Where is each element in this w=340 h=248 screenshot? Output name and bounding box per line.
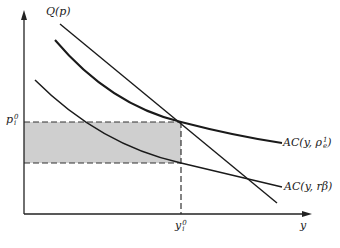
y-axis-arrow-icon: [21, 10, 27, 20]
y-i0-label: y0i: [175, 220, 187, 233]
ac-rbeta-label: AC(y, rβ): [284, 181, 332, 192]
y-i0-main: y: [175, 219, 181, 232]
x-axis-label: y: [300, 220, 306, 231]
p-i0-main: p: [6, 113, 13, 126]
ac-rho-label-main: AC(y, ρ: [283, 136, 322, 149]
y-i0-sub: i: [182, 226, 186, 232]
p-i0-label: p0i: [6, 114, 19, 127]
diagram-canvas: [0, 0, 340, 248]
ac-rho-label-close: ): [327, 136, 331, 149]
q-p-label: Q(p): [46, 6, 71, 17]
ac-rho-label: AC(y, ρ1e): [283, 137, 332, 150]
x-axis-arrow-icon: [302, 211, 312, 217]
cost-curve-diagram: Q(p) AC(y, ρ1e) AC(y, rβ) p0i y0i y: [0, 0, 340, 248]
p-i0-sub: i: [14, 120, 18, 126]
demand-curve-q: [60, 24, 277, 203]
